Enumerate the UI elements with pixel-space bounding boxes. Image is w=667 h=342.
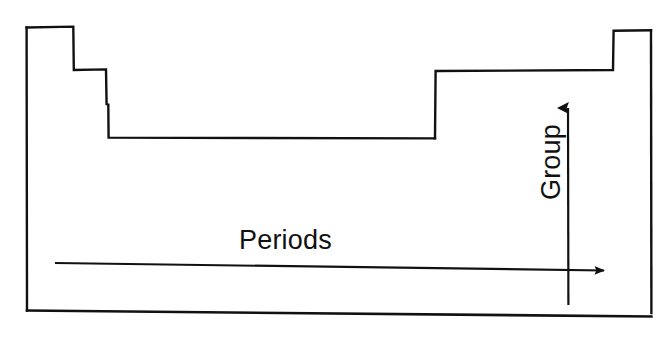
periods-axis-arrow	[55, 263, 604, 271]
x-axis-label-periods: Periods	[239, 225, 332, 255]
step-diagram-svg	[0, 0, 667, 342]
figure-container: Periods Group	[0, 0, 667, 342]
y-axis-label-group: Group	[536, 124, 566, 200]
